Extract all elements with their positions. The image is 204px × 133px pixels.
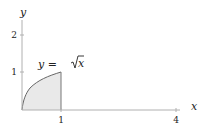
function-label: y = xyxy=(37,58,57,71)
y-tick-label-0: 1 xyxy=(11,67,17,77)
function-label-radicand: x xyxy=(78,57,85,70)
chart: 2 1 1 4 y x y = x xyxy=(0,0,204,133)
x-axis-label: x xyxy=(191,100,198,113)
y-tick-label-1: 2 xyxy=(11,30,17,40)
function-label-prefix: y = xyxy=(37,58,57,71)
y-axis-label: y xyxy=(19,6,27,19)
x-tick-label-1: 4 xyxy=(173,115,179,125)
x-tick-label-0: 1 xyxy=(58,115,64,125)
